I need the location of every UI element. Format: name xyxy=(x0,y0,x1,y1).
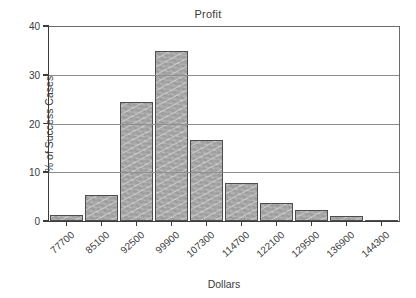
x-tick-label-text: 92500 xyxy=(118,229,146,256)
x-tick-label-text: 129500 xyxy=(289,229,321,260)
x-tick-mark-99900 xyxy=(171,221,173,226)
profit-histogram-chart: Profit % of Success Cases010203040777008… xyxy=(0,0,416,298)
y-tick-label-10: 10 xyxy=(29,167,40,178)
x-tick-label-text: 122100 xyxy=(254,229,286,260)
x-tick-label-85100: 85100 xyxy=(69,229,111,268)
x-tick-mark-122100 xyxy=(276,221,278,226)
bar xyxy=(190,140,223,221)
x-tick-label-text: 99900 xyxy=(153,229,181,256)
x-tick-mark-129500 xyxy=(311,221,313,226)
bar xyxy=(260,203,293,221)
y-tick-mark-30 xyxy=(43,74,49,76)
x-tick-label-107300: 107300 xyxy=(174,229,216,268)
x-tick-label-136900: 136900 xyxy=(314,229,356,268)
x-tick-label-129500: 129500 xyxy=(279,229,321,268)
gridline-40 xyxy=(49,26,399,27)
x-tick-label-text: 136900 xyxy=(324,229,356,260)
y-tick-mark-0 xyxy=(43,220,49,222)
y-tick-label-40: 40 xyxy=(29,21,40,32)
x-tick-label-text: 77700 xyxy=(48,229,76,256)
x-tick-label-text: 114700 xyxy=(219,229,251,259)
y-tick-label-30: 30 xyxy=(29,69,40,80)
x-tick-label-text: 107300 xyxy=(184,229,216,260)
bar xyxy=(120,102,153,221)
x-tick-label-text: 144300 xyxy=(359,229,391,260)
x-tick-mark-114700 xyxy=(241,221,243,226)
x-tick-label-text: 85100 xyxy=(83,229,111,256)
x-tick-mark-144300 xyxy=(381,221,383,226)
gridline-10 xyxy=(49,172,399,173)
x-tick-mark-85100 xyxy=(101,221,103,226)
x-tick-mark-77700 xyxy=(66,221,68,226)
x-tick-label-92500: 92500 xyxy=(104,229,146,268)
chart-title: Profit xyxy=(0,8,416,20)
x-tick-label-99900: 99900 xyxy=(139,229,181,268)
x-tick-mark-92500 xyxy=(136,221,138,226)
x-axis-title: Dollars xyxy=(48,278,400,290)
bar xyxy=(225,183,258,222)
x-tick-label-122100: 122100 xyxy=(244,229,286,268)
y-tick-mark-20 xyxy=(43,123,49,125)
x-tick-label-144300: 144300 xyxy=(349,229,391,268)
bar xyxy=(295,210,328,221)
x-tick-mark-107300 xyxy=(206,221,208,226)
x-tick-label-77700: 77700 xyxy=(34,229,76,268)
plot-area: % of Success Cases0102030407770085100925… xyxy=(48,26,400,222)
y-tick-mark-40 xyxy=(43,25,49,27)
y-tick-label-20: 20 xyxy=(29,118,40,129)
y-tick-label-0: 0 xyxy=(34,216,40,227)
gridline-20 xyxy=(49,124,399,125)
x-tick-mark-136900 xyxy=(346,221,348,226)
y-tick-mark-10 xyxy=(43,171,49,173)
gridline-30 xyxy=(49,75,399,76)
bar xyxy=(155,51,188,221)
bar xyxy=(85,195,118,221)
x-tick-label-114700: 114700 xyxy=(209,229,251,268)
